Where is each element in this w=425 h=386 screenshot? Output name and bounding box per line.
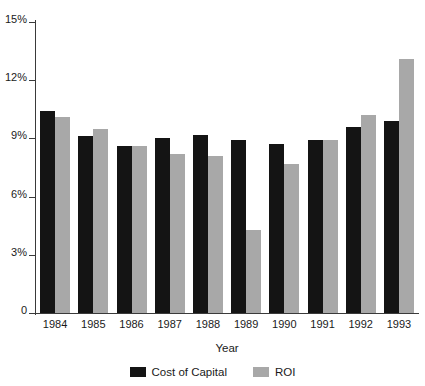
bar-group — [227, 22, 265, 313]
y-axis-tick-mark — [29, 80, 35, 81]
bar-group — [151, 22, 189, 313]
x-axis-tick-label: 1992 — [342, 318, 380, 331]
bar-cost-of-capital-1986 — [117, 146, 132, 313]
legend-swatch — [130, 367, 146, 377]
bar-roi-1984 — [55, 117, 70, 313]
bar-group — [74, 22, 112, 313]
bar-roi-1985 — [93, 129, 108, 313]
bar-group — [380, 22, 418, 313]
x-axis-tick-labels: 1984198519861987198819891990199119921993 — [36, 318, 418, 331]
bar-chart: 03%6%9%12%15% 19841985198619871988198919… — [0, 0, 425, 386]
bar-group — [265, 22, 303, 313]
legend-swatch — [253, 367, 269, 377]
bar-roi-1986 — [132, 146, 147, 313]
x-axis-tick-label: 1984 — [36, 318, 74, 331]
bar-group — [303, 22, 341, 313]
x-axis-tick-label: 1988 — [189, 318, 227, 331]
y-axis-tick-mark — [29, 255, 35, 256]
x-axis-title: Year — [36, 342, 418, 354]
bar-cost-of-capital-1990 — [269, 144, 284, 313]
x-axis-tick-label: 1986 — [112, 318, 150, 331]
x-axis-tick-label: 1987 — [151, 318, 189, 331]
legend-label: ROI — [275, 366, 295, 378]
y-axis-tick-mark — [29, 22, 35, 23]
y-axis-tick-mark — [29, 313, 35, 314]
bars-layer — [36, 22, 418, 313]
y-axis-tick-label: 12% — [5, 72, 27, 83]
y-axis-tick-label: 0 — [21, 305, 27, 316]
bar-roi-1990 — [284, 164, 299, 313]
x-axis-tick-label: 1993 — [380, 318, 418, 331]
bar-roi-1989 — [246, 230, 261, 313]
bar-cost-of-capital-1988 — [193, 135, 208, 313]
y-axis-tick-mark — [29, 138, 35, 139]
bar-group — [342, 22, 380, 313]
bar-cost-of-capital-1991 — [308, 140, 323, 313]
bar-group — [112, 22, 150, 313]
bar-cost-of-capital-1989 — [231, 140, 246, 313]
chart-legend: Cost of CapitalROI — [0, 366, 425, 378]
legend-item-cost-of-capital: Cost of Capital — [130, 366, 227, 378]
y-axis-tick-label: 15% — [5, 14, 27, 25]
plot-area: 03%6%9%12%15% — [36, 22, 418, 313]
bar-roi-1993 — [399, 59, 414, 313]
legend-label: Cost of Capital — [152, 366, 227, 378]
x-axis-tick-label: 1990 — [265, 318, 303, 331]
bar-roi-1992 — [361, 115, 376, 313]
x-axis-line — [35, 313, 419, 314]
bar-roi-1987 — [170, 154, 185, 313]
bar-cost-of-capital-1985 — [78, 136, 93, 313]
x-axis-tick-label: 1985 — [74, 318, 112, 331]
bar-cost-of-capital-1984 — [40, 111, 55, 313]
y-axis-tick-label: 3% — [11, 247, 27, 258]
bar-roi-1991 — [323, 140, 338, 313]
bar-group — [189, 22, 227, 313]
x-axis-tick-label: 1991 — [303, 318, 341, 331]
y-axis-tick-label: 6% — [11, 189, 27, 200]
bar-roi-1988 — [208, 156, 223, 313]
bar-group — [36, 22, 74, 313]
y-axis-tick-mark — [29, 197, 35, 198]
bar-cost-of-capital-1993 — [384, 121, 399, 313]
bar-cost-of-capital-1992 — [346, 127, 361, 313]
x-axis-tick-label: 1989 — [227, 318, 265, 331]
y-axis-tick-label: 9% — [11, 130, 27, 141]
bar-cost-of-capital-1987 — [155, 138, 170, 313]
legend-item-roi: ROI — [253, 366, 295, 378]
